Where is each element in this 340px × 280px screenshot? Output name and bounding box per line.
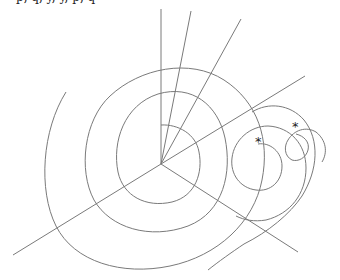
main-spiral <box>45 68 265 269</box>
asterisk-marker-1: * <box>255 134 262 149</box>
spiral-diagram: * * <box>0 0 340 280</box>
ray-up-right-1 <box>161 11 191 164</box>
asterisk-marker-2: * <box>292 119 299 134</box>
small-spiral-1 <box>232 126 306 221</box>
ray-lower-right <box>161 164 298 252</box>
ray-lower-left <box>13 164 161 255</box>
ray-right <box>161 76 305 164</box>
